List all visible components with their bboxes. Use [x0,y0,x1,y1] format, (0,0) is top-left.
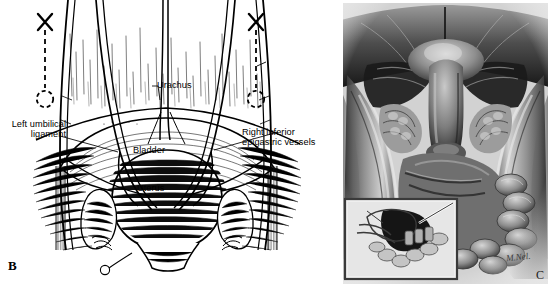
label-urachus: Urachus [157,80,192,90]
panel-c-grayscale-render: M.Nel. C [343,3,548,284]
right-adnexa [218,189,254,250]
label-left-umbilical-ligament: Left umbilicalligament [0,119,66,140]
panel-c-letter: C [536,268,544,283]
panel-c-artwork [343,3,548,284]
figure-container: Left umbilicalligament Right inferiorepi… [0,0,551,287]
cervical-loop-marker [100,253,132,275]
left-trocar-x-icon [38,14,52,30]
abdominal-wall-hatching [70,28,261,108]
left-adnexa [81,189,117,250]
panel-c-inset [345,199,457,279]
right-trocar-x-icon [249,14,263,30]
left-trocar-marker [37,14,53,107]
left-trocar-circle-icon [37,91,53,107]
label-bladder: Bladder [133,145,165,155]
panel-b-letter: B [8,258,17,274]
label-uterus: Uterus [137,183,164,193]
cervix-shape [137,243,199,271]
label-right-inferior-epigastric-vessels: Right inferiorepigastric vessels [242,127,338,148]
panel-b-line-drawing: Left umbilicalligament Right inferiorepi… [0,0,340,287]
